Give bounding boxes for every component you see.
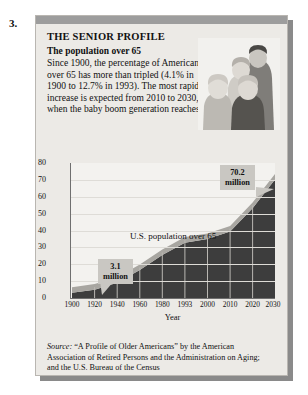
y-axis-line (70, 163, 71, 298)
source-citation: Source: “A Profile of Older Americans” b… (47, 342, 273, 373)
series-label: U.S. population over 65 (130, 231, 216, 241)
page-root: 3. THE SENIOR PROFILE The population ove… (0, 0, 308, 395)
x-tick-2030: 2030 (266, 301, 281, 309)
panel-top-bar (36, 16, 287, 24)
y-tick-50: 50 (35, 210, 46, 218)
page-title: THE SENIOR PROFILE (47, 30, 215, 43)
x-tick-1960: 1960 (132, 301, 147, 309)
callout-end-line1: 70.2 (230, 168, 245, 177)
header-block: THE SENIOR PROFILE The population over 6… (47, 30, 215, 116)
callout-start-line2: million (103, 272, 128, 281)
y-tick-10: 10 (35, 277, 46, 285)
y-tick-20: 20 (35, 260, 46, 268)
x-tick-1980: 1980 (155, 301, 170, 309)
y-tick-40: 40 (35, 227, 46, 235)
x-tick-1920: 1920 (87, 301, 102, 309)
x-tick-2010: 2010 (223, 301, 238, 309)
callout-end-line2: million (225, 178, 250, 187)
x-tick-1993: 1993 (178, 301, 193, 309)
chart-plot-area: U.S. population over 65 3.1 million 70.2… (70, 163, 275, 298)
callout-start-tail (100, 281, 136, 297)
source-text: “A Profile of Older Americans” by the Am… (47, 342, 260, 372)
header-subtitle: The population over 65 (47, 45, 215, 57)
x-tick-1900: 1900 (65, 301, 80, 309)
header-body-text: Since 1900, the percentage of Americans … (47, 58, 215, 116)
population-chart: U.S. population over 65 3.1 million 70.2… (44, 159, 282, 329)
callout-start-line1: 3.1 (110, 262, 120, 271)
y-tick-70: 70 (35, 176, 46, 184)
callout-end: 70.2 million (220, 165, 255, 190)
x-tick-1940: 1940 (110, 301, 125, 309)
infographic-panel: THE SENIOR PROFILE The population over 6… (35, 15, 288, 376)
x-axis-title: Year (70, 312, 275, 322)
source-label: Source: (47, 342, 72, 351)
x-tick-2020: 2020 (245, 301, 260, 309)
item-number: 3. (9, 17, 17, 29)
y-tick-60: 60 (35, 193, 46, 201)
y-tick-80: 80 (35, 159, 46, 167)
family-photo (198, 38, 280, 130)
x-axis-line (70, 298, 275, 299)
y-tick-30: 30 (35, 243, 46, 251)
callout-end-tail (256, 187, 275, 205)
x-tick-2000: 2000 (200, 301, 215, 309)
y-tick-0: 0 (35, 294, 46, 302)
family-photo-illustration (198, 38, 280, 130)
